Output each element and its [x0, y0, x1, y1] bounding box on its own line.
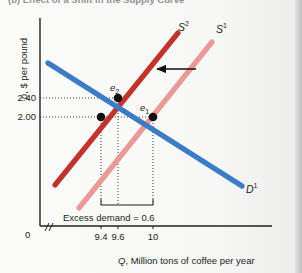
curve-label-s2: S2 — [178, 20, 189, 33]
x-axis-title: Q, Million tons of coffee per year — [118, 255, 255, 266]
curve-label-s1: S1 — [216, 22, 227, 35]
figure-panel: (b) Effect of a Shift in the Supply Curv… — [0, 0, 302, 273]
point-e2 — [114, 94, 123, 103]
axis-break-mark — [45, 223, 53, 231]
y-tick-200: 2.00 — [2, 112, 36, 122]
curve-label-d1: D1 — [246, 182, 258, 195]
equilibrium-label-e1: e1 — [140, 102, 149, 115]
point-supply-at-2-00 — [97, 113, 106, 122]
x-tick-10: 10 — [140, 232, 166, 242]
equilibrium-label-e2: e2 — [110, 82, 119, 95]
chart-plot-area: p, $ per pound Q, Million tons of coffee… — [0, 0, 302, 273]
excess-demand-label: Excess demand = 0.6 — [63, 212, 155, 223]
excess-demand-bracket — [101, 199, 153, 205]
demand-curve-d1 — [48, 63, 242, 186]
origin-label: 0 — [25, 229, 30, 240]
y-tick-240: 2.40 — [2, 93, 36, 103]
axis-lines — [40, 18, 272, 226]
point-e1 — [149, 113, 158, 122]
x-tick-96: 9.6 — [105, 232, 131, 242]
